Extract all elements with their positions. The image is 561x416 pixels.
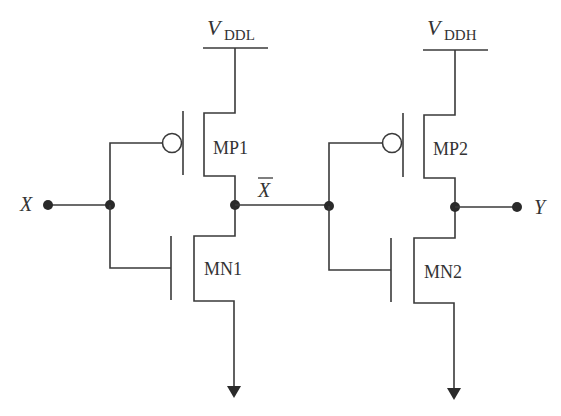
mp2-gate-wire	[329, 143, 382, 205]
mn1-label: MN1	[204, 259, 242, 279]
mp1-bubble-icon	[163, 134, 182, 153]
mn1-channel	[194, 205, 235, 386]
input-label: X	[19, 193, 33, 215]
xbar-label: X	[257, 179, 271, 201]
vddl-label-sub: DDL	[224, 27, 255, 43]
ground-2-icon	[447, 388, 461, 400]
output-terminal-icon	[512, 202, 522, 212]
vddl-label-main: V	[207, 15, 223, 40]
vddh-label-main: V	[427, 15, 443, 40]
mp1-gate-wire	[110, 143, 162, 205]
output-label: Y	[534, 196, 547, 218]
mn2-gate-wire	[329, 206, 391, 270]
mp1-channel	[204, 48, 235, 205]
mp2-channel	[424, 50, 455, 207]
ground-1-icon	[227, 386, 241, 398]
level-shifter-circuit: V DDL MP1 X MN1 X V DDH MP2 MN2 Y	[0, 0, 561, 416]
input-terminal-icon	[43, 200, 53, 210]
mp2-bubble-icon	[383, 134, 402, 153]
mn2-channel	[414, 207, 455, 388]
mn1-gate-wire	[110, 205, 171, 268]
vddh-label-sub: DDH	[444, 27, 477, 43]
mp2-label: MP2	[433, 139, 468, 159]
mn2-label: MN2	[424, 262, 462, 282]
mp1-label: MP1	[213, 138, 248, 158]
